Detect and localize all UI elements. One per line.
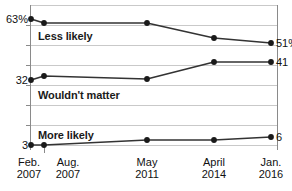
- x-axis-label-may-2011: May 2011: [125, 156, 169, 180]
- x-axis-label-line1: April: [192, 156, 236, 168]
- x-axis-label-line1: May: [125, 156, 169, 168]
- x-axis-label-line1: Jan.: [249, 156, 292, 168]
- data-point: [28, 142, 34, 148]
- data-point: [41, 73, 47, 79]
- x-axis-label-line2: 2011: [125, 168, 169, 180]
- data-point: [211, 137, 217, 143]
- data-point: [144, 20, 150, 26]
- data-point: [144, 137, 150, 143]
- data-point: [28, 77, 34, 83]
- x-axis-label-feb-2007: Feb. 2007: [7, 156, 51, 180]
- series-label-less-likely: Less likely: [38, 30, 93, 42]
- line-chart: 63% 32 3 51% 41 6 Less likely Wouldn't m…: [0, 0, 292, 191]
- end-value-label-wouldnt-matter: 41: [276, 56, 288, 68]
- data-point: [211, 35, 217, 41]
- start-value-label-wouldnt-matter: 32: [0, 74, 28, 86]
- end-value-label-more-likely: 6: [276, 131, 282, 143]
- data-point: [28, 16, 34, 22]
- x-axis-label-line2: 2007: [7, 168, 51, 180]
- data-point: [268, 134, 274, 140]
- end-value-label-less-likely: 51%: [276, 37, 292, 49]
- start-value-label-less-likely: 63%: [0, 13, 28, 25]
- data-point: [41, 20, 47, 26]
- data-point: [268, 59, 274, 65]
- start-value-label-more-likely: 3: [0, 139, 28, 151]
- data-point: [41, 142, 47, 148]
- x-axis-label-jan-2016: Jan. 2016: [249, 156, 292, 180]
- x-axis-label-line1: Feb.: [7, 156, 51, 168]
- x-axis-label-line2: 2016: [249, 168, 292, 180]
- x-axis-label-line2: 2007: [46, 168, 90, 180]
- data-point: [211, 59, 217, 65]
- series-label-wouldnt-matter: Wouldn't matter: [38, 89, 120, 101]
- x-axis-label-line1: Aug.: [46, 156, 90, 168]
- x-axis-label-line2: 2014: [192, 168, 236, 180]
- gridlines: [30, 6, 278, 146]
- x-axis-label-april-2014: April 2014: [192, 156, 236, 180]
- data-point: [144, 76, 150, 82]
- data-point: [268, 40, 274, 46]
- x-axis-label-aug-2007: Aug. 2007: [46, 156, 90, 180]
- series-label-more-likely: More likely: [38, 129, 94, 141]
- series-line-wouldnt-matter: [31, 62, 271, 80]
